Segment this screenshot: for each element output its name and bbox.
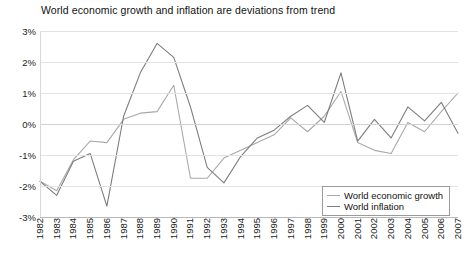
- gridline: [40, 31, 458, 32]
- x-axis-tick-label: 2005: [420, 218, 430, 239]
- x-axis-tick-label: 1990: [169, 218, 179, 239]
- legend-item-world-inflation: World inflation: [327, 201, 443, 212]
- gridline: [40, 155, 458, 156]
- x-axis-tick-label: 1994: [236, 218, 246, 239]
- y-axis-tick-label: 1%: [2, 88, 36, 99]
- x-axis-tick-label: 1992: [202, 218, 212, 239]
- x-axis-tick-label: 1991: [185, 218, 195, 239]
- x-axis-tick-label: 1983: [52, 218, 62, 239]
- y-axis-tick-label: 0%: [2, 119, 36, 130]
- y-axis-tick-label: -1%: [2, 150, 36, 161]
- x-axis-tick-label: 1995: [252, 218, 262, 239]
- y-axis-tick-label: 3%: [2, 26, 36, 37]
- x-axis: 1982198319841985198619871988198919901991…: [40, 218, 458, 260]
- y-axis-tick-label: -2%: [2, 181, 36, 192]
- x-axis-tick-label: 2002: [369, 218, 379, 239]
- x-axis-tick-label: 1988: [135, 218, 145, 239]
- legend-item-world-economic-growth: World economic growth: [327, 190, 443, 201]
- legend-label-growth: World economic growth: [344, 190, 443, 201]
- x-axis-tick-label: 2000: [336, 218, 346, 239]
- x-axis-tick-label: 2006: [436, 218, 446, 239]
- x-axis-tick-label: 1987: [119, 218, 129, 239]
- chart-title: World economic growth and inflation are …: [41, 4, 335, 16]
- x-axis-tick-label: 1998: [303, 218, 313, 239]
- x-axis-tick-label: 2003: [386, 218, 396, 239]
- gridline: [40, 93, 458, 94]
- x-axis-tick-label: 1996: [269, 218, 279, 239]
- x-axis-tick-label: 1986: [102, 218, 112, 239]
- x-axis-tick-label: 2007: [453, 218, 463, 239]
- x-axis-tick-label: 1989: [152, 218, 162, 239]
- x-axis-tick-label: 2001: [353, 218, 363, 239]
- x-axis-tick-label: 1985: [85, 218, 95, 239]
- legend-swatch-inflation-icon: [327, 206, 340, 207]
- x-axis-tick-label: 1999: [319, 218, 329, 239]
- x-axis-tick-label: 2004: [403, 218, 413, 239]
- x-axis-tick-label: 1993: [219, 218, 229, 239]
- chart-container: World economic growth and inflation are …: [0, 0, 474, 260]
- y-axis-tick-label: -3%: [2, 212, 36, 223]
- gridline: [40, 62, 458, 63]
- y-axis-tick-label: 2%: [2, 57, 36, 68]
- x-axis-tick-label: 1984: [68, 218, 78, 239]
- x-axis-tick-label: 1997: [286, 218, 296, 239]
- gridline: [40, 124, 458, 125]
- legend-swatch-growth-icon: [327, 195, 340, 196]
- y-axis: 3%2%1%0%-1%-2%-3%: [0, 0, 36, 260]
- series-line: [40, 85, 458, 190]
- legend-label-inflation: World inflation: [344, 201, 404, 212]
- chart-legend: World economic growth World inflation: [322, 186, 450, 216]
- x-axis-tick-label: 1982: [35, 218, 45, 239]
